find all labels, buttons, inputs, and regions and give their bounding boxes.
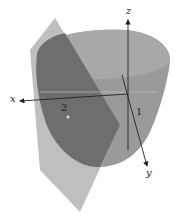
z-axis-label: z: [126, 6, 131, 16]
y-tick-label: 1: [136, 107, 142, 117]
diagram-canvas: z x y 2 1: [0, 0, 186, 223]
point-marker: [67, 116, 70, 119]
paraboloid-plane-figure: [0, 0, 186, 223]
x-axis-label: x: [10, 94, 16, 104]
y-axis-label: y: [146, 168, 152, 178]
x-tick-label: 2: [61, 103, 67, 113]
